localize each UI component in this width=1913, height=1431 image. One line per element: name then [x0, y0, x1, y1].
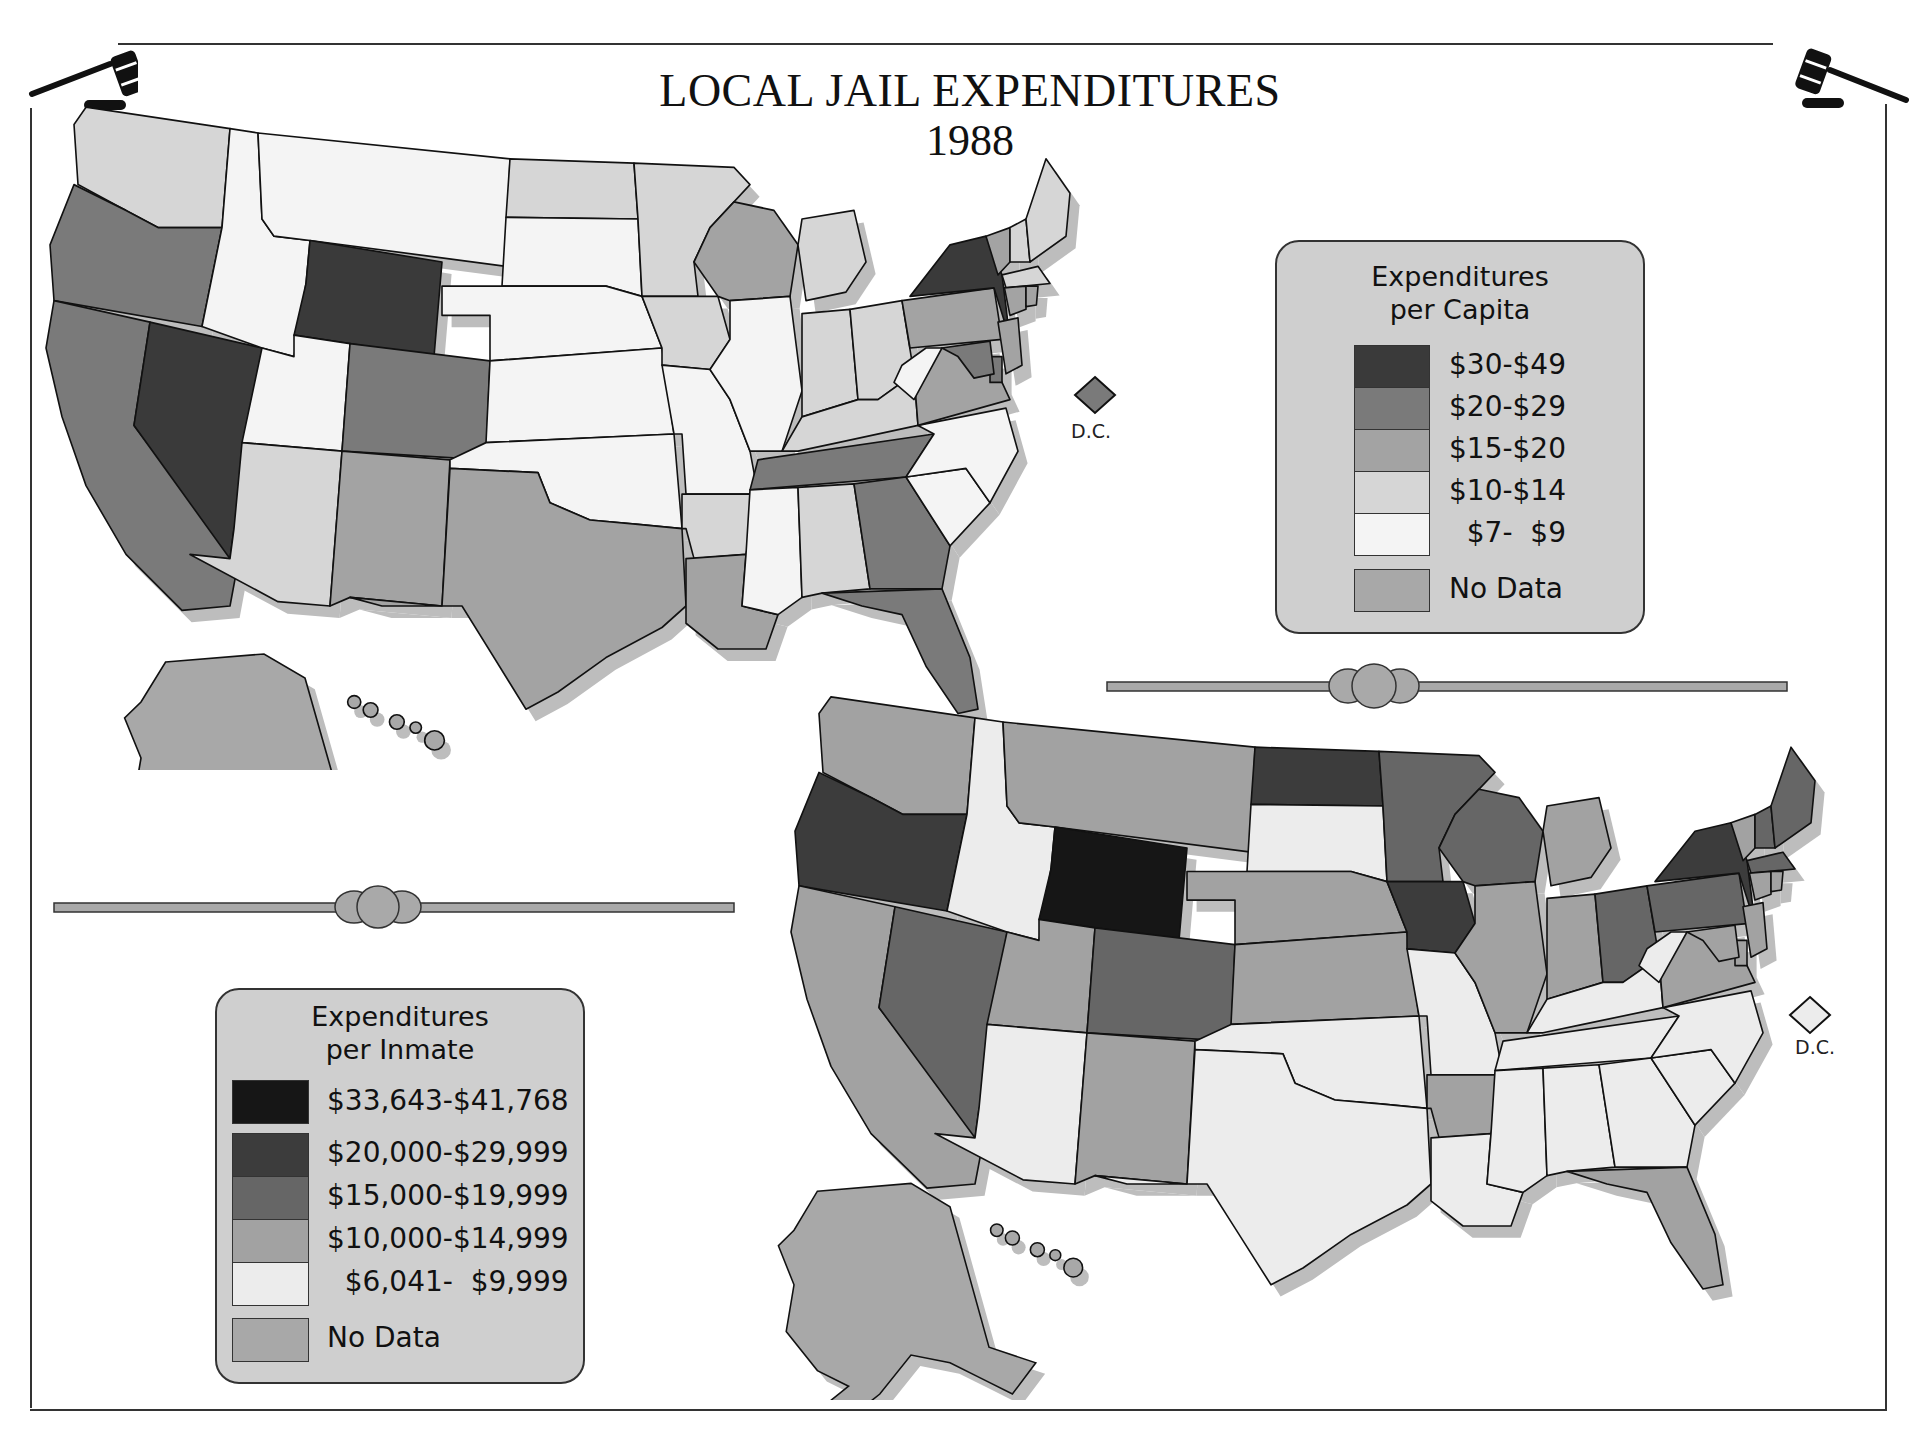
state-hi-island: [991, 1224, 1003, 1236]
state-dc: [1790, 997, 1830, 1033]
legend-label-c1: $30-$49: [1449, 348, 1566, 381]
state-ms: [1487, 1068, 1547, 1192]
legend-label-nodata: No Data: [327, 1321, 441, 1354]
legend-title-line2: per Inmate: [217, 1033, 583, 1066]
legend-label-i2: $20,000-$29,999: [327, 1136, 569, 1169]
legend-swatch-c3: [1354, 429, 1430, 472]
legend-swatch-i5: [232, 1262, 309, 1306]
state-nd: [506, 159, 638, 219]
legend-swatch-i2: [232, 1133, 309, 1177]
legend-label-c2: $20-$29: [1449, 390, 1566, 423]
state-hi-island: [363, 703, 378, 717]
legend-label-c4: $10-$14: [1449, 474, 1566, 507]
state-in: [1547, 894, 1603, 999]
state-nm: [330, 451, 450, 606]
legend-per-capita: Expenditures per Capita $30-$49 $20-$29 …: [1275, 240, 1645, 634]
legend-label-i1: $33,643-$41,768: [327, 1084, 569, 1117]
state-co: [342, 344, 490, 460]
state-pa: [902, 288, 1002, 348]
divider-ornament-right: [1100, 662, 1800, 712]
state-sd: [1247, 804, 1387, 881]
state-pa: [1647, 873, 1747, 932]
state-in: [802, 309, 858, 417]
state-co: [1087, 928, 1235, 1041]
state-hi-island: [1050, 1250, 1061, 1261]
state-nm: [1075, 1033, 1195, 1184]
state-dc: [1075, 377, 1115, 413]
legend-label-i3: $15,000-$19,999: [327, 1179, 569, 1212]
legend-label-c5: $7- $9: [1449, 516, 1566, 549]
legend-swatch-c5: [1354, 513, 1430, 556]
dc-label-top: D.C.: [1071, 420, 1111, 442]
legend-label-i4: $10,000-$14,999: [327, 1222, 569, 1255]
legend-swatch-i1: [232, 1080, 309, 1124]
state-hi-island: [410, 722, 421, 733]
state-hi-island: [425, 731, 445, 750]
legend-swatch-c1: [1354, 345, 1430, 388]
legend-label-i5: $6,041- $9,999: [327, 1265, 569, 1298]
state-sd: [502, 217, 642, 296]
map-per-capita: [20, 70, 1180, 770]
state-ks: [486, 348, 674, 443]
state-hi-island: [1064, 1258, 1083, 1277]
state-hi-island: [389, 715, 404, 729]
legend-label-nodata: No Data: [1449, 572, 1563, 605]
legend-swatch-nodata: [1354, 569, 1430, 612]
dc-label-bottom: D.C.: [1795, 1036, 1835, 1058]
state-ri: [1026, 286, 1038, 307]
state-hi-island: [1005, 1231, 1019, 1245]
state-hi-island: [1030, 1243, 1044, 1257]
legend-per-inmate: Expenditures per Inmate $33,643-$41,768 …: [215, 988, 585, 1384]
state-ms: [742, 487, 802, 614]
legend-swatch-i3: [232, 1176, 309, 1220]
state-hi-island: [348, 696, 361, 709]
legend-title-line1: Expenditures: [217, 1000, 583, 1033]
state-nd: [1251, 747, 1383, 806]
legend-label-c3: $15-$20: [1449, 432, 1566, 465]
frame-top-border: [118, 43, 1773, 45]
gavel-icon-right: [1790, 42, 1910, 112]
legend-swatch-i4: [232, 1219, 309, 1263]
map-per-inmate: [735, 680, 1895, 1400]
divider-ornament-left: [40, 880, 740, 930]
state-ri: [1771, 872, 1783, 892]
legend-title-line1: Expenditures: [1277, 260, 1643, 293]
legend-title-line2: per Capita: [1277, 293, 1643, 326]
legend-swatch-c4: [1354, 471, 1430, 514]
legend-swatch-nodata: [232, 1318, 309, 1362]
frame-bottom-border: [30, 1409, 1887, 1411]
legend-swatch-c2: [1354, 387, 1430, 430]
state-ks: [1231, 932, 1419, 1024]
